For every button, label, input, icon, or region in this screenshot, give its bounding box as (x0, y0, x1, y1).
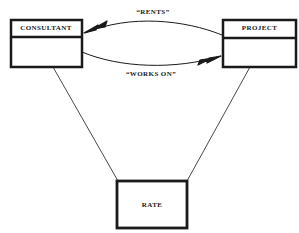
entity-consultant-label: CONSULTANT (12, 25, 80, 32)
er-diagram (0, 0, 299, 233)
double-arrowhead-icon (84, 21, 107, 33)
relationship-works-on-label: “WORKS ON” (118, 71, 184, 78)
entity-project-label: PROJECT (224, 25, 295, 32)
relationship-rents-arrow (84, 21, 222, 35)
link-consultant-rate (53, 67, 118, 181)
relationship-rents-label: “RENTS” (128, 9, 178, 16)
double-arrowhead-icon (198, 56, 221, 65)
entity-rate-label: RATE (118, 202, 186, 209)
relationship-works-on-arrow (82, 52, 221, 65)
link-project-rate (187, 67, 250, 181)
